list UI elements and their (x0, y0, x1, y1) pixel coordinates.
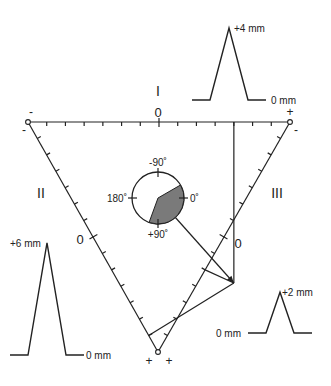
axis-tick (74, 202, 77, 204)
ecg-lead-iii: +2 mm 0 mm (216, 287, 313, 339)
axis-tick (112, 268, 115, 270)
lead-i-label: I (156, 83, 160, 99)
axis-tick (84, 219, 87, 221)
axis-tick (139, 317, 142, 319)
label-plus-90: +90˚ (148, 229, 168, 240)
label-180: 180˚ (107, 193, 127, 204)
axis-tick (192, 284, 195, 286)
lead-iii-negative: - (294, 123, 298, 137)
ecg-lead-i-peak-label: +4 mm (234, 23, 265, 34)
lead-ii-label: II (37, 185, 45, 201)
axis-tick (65, 186, 68, 188)
einthoven-triangle-diagram: -90˚ +90˚ 180˚ 0˚ I II III 0 0 0 - + - -… (0, 0, 331, 386)
axis-tick (239, 202, 242, 204)
lead-iii-label: III (271, 185, 283, 201)
vertex-right (288, 120, 293, 125)
axis-tick (56, 169, 59, 171)
lead-ii-negative: - (22, 123, 26, 137)
lead-i-negative: - (29, 105, 33, 119)
ecg-lead-iii-peak-label: +2 mm (282, 287, 313, 298)
vertex-left (26, 120, 31, 125)
vertex-bottom (156, 350, 161, 355)
axis-tick (130, 301, 133, 303)
label-0: 0˚ (190, 193, 199, 204)
axis-tick (164, 334, 167, 336)
axis-tick (102, 251, 105, 253)
lead-i-positive: + (286, 105, 293, 119)
ecg-lead-ii: +6 mm 0 mm (10, 238, 111, 361)
axis-tick (47, 153, 50, 155)
ecg-lead-ii-waveform (10, 243, 84, 355)
label-minus-90: -90˚ (149, 157, 167, 168)
ecg-lead-i-waveform (192, 28, 266, 100)
axis-tick (121, 284, 124, 286)
lead-ii-positive: + (145, 354, 152, 368)
ecg-lead-i: +4 mm 0 mm (192, 23, 296, 106)
lead-iii-zero: 0 (234, 236, 241, 251)
lead-i-zero: 0 (154, 105, 161, 120)
axis-tick (211, 251, 214, 253)
ecg-lead-ii-peak-label: +6 mm (10, 238, 41, 249)
ecg-lead-i-baseline-label: 0 mm (271, 95, 296, 106)
axis-tick (249, 186, 252, 188)
ecg-lead-iii-waveform (248, 292, 312, 333)
axis-ticks (37, 118, 280, 336)
lead-ii-zero: 0 (76, 232, 83, 247)
ecg-lead-ii-baseline-label: 0 mm (86, 350, 111, 361)
axis-tick (183, 301, 186, 303)
axis-tick (258, 169, 261, 171)
ecg-lead-iii-baseline-label: 0 mm (216, 328, 241, 339)
axis-tick (277, 136, 280, 138)
axis-tick (202, 268, 205, 270)
lead-iii-positive: + (165, 354, 172, 368)
axis-tick (37, 136, 40, 138)
axis-tick (268, 153, 271, 155)
lead-iii-projection-line (205, 270, 234, 283)
axis-tick (230, 219, 233, 221)
